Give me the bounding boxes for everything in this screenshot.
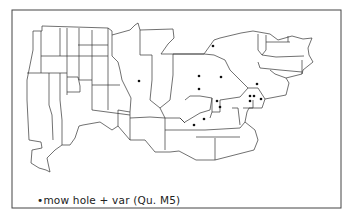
map-legend: •mow hole + var (Qu. M5)	[37, 194, 180, 206]
state-boundaries	[27, 23, 313, 172]
map-frame: •mow hole + var (Qu. M5)	[0, 0, 353, 222]
data-points	[138, 45, 263, 127]
map-border	[12, 10, 341, 208]
us-state-map	[0, 0, 353, 222]
